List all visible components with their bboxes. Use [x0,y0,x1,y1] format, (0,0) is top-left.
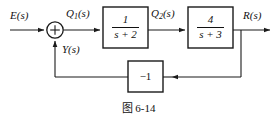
label-feedback-signal: Y(s) [62,44,80,55]
label-q2-signal: Q2(s) [151,8,175,21]
block-1-transfer-function: 1 s + 2 [103,14,148,41]
label-q1-tail: (s) [78,7,90,19]
label-q2-base: Q [151,7,159,19]
block-1-fraction: 1 s + 2 [112,14,139,40]
block-2-transfer-function: 4 s + 3 [188,14,233,41]
label-q2-tail: (s) [163,7,175,19]
figure-block-diagram: E(s) Q1(s) Q2(s) R(s) Y(s) 1 s + 2 4 s +… [0,0,277,119]
label-q1-signal: Q1(s) [66,8,90,21]
block-2-numerator: 4 [197,14,224,26]
block-1-denominator: s + 2 [112,29,139,41]
label-input-signal: E(s) [10,10,28,21]
block-1-numerator: 1 [112,14,139,26]
feedback-block-gain: −1 [128,70,163,82]
block-2-fraction: 4 s + 3 [197,14,224,40]
block-2-denominator: s + 3 [197,29,224,41]
label-output-signal: R(s) [243,10,261,21]
figure-caption: 图 6-14 [0,99,277,115]
label-q1-base: Q [66,7,74,19]
